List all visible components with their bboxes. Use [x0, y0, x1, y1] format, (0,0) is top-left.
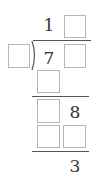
remainder-digit: 3: [68, 158, 82, 175]
subtraction-line-2: [32, 151, 89, 152]
step2-product-digit-1-box[interactable]: [37, 125, 60, 148]
divisor-digit-1-box[interactable]: [8, 44, 30, 68]
quotient-digit-1: 1: [42, 17, 56, 34]
division-bar: [33, 40, 91, 41]
step1-product-digit-1-box[interactable]: [37, 70, 60, 93]
dividend-digit-2-box[interactable]: [64, 44, 86, 68]
step2-product-digit-2-box[interactable]: [63, 125, 86, 148]
step1-remainder-digit-2: 8: [68, 104, 82, 121]
division-bracket: [30, 40, 38, 72]
dividend-digit-1: 7: [42, 50, 56, 67]
quotient-digit-2-box[interactable]: [64, 15, 86, 38]
subtraction-line-1: [32, 96, 89, 97]
step1-remainder-digit-1-box[interactable]: [37, 99, 60, 123]
